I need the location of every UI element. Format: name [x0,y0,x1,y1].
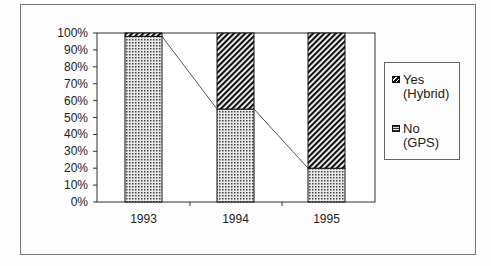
legend: Yes (Hybrid) No (GPS) [384,62,460,160]
y-tick-label: 60% [44,95,88,107]
y-tick-label: 10% [44,179,88,191]
legend-label: No [403,122,420,136]
dotted-swatch-icon [392,125,400,132]
y-tick-label: 0% [44,196,88,208]
x-tick-label: 1993 [124,212,164,226]
y-tick-label: 20% [44,162,88,174]
x-tick-label: 1994 [216,212,256,226]
bar-no-1993 [125,36,162,202]
y-tick-label: 30% [44,145,88,157]
bar-yes-1995 [308,33,345,168]
legend-label: Yes [403,73,424,87]
y-tick-label: 40% [44,128,88,140]
y-tick-label: 50% [44,112,88,124]
hatch-swatch-icon [392,76,400,83]
bars-group [97,33,375,202]
legend-label: (Hybrid) [403,87,449,101]
y-tick-label: 100% [44,27,88,39]
bar-no-1995 [308,168,345,202]
bar-yes-1994 [217,33,254,109]
y-tick-label: 70% [44,78,88,90]
bar-yes-1993 [125,33,162,36]
x-tick-label: 1995 [307,212,347,226]
y-tick-label: 80% [44,61,88,73]
legend-label: (GPS) [403,136,439,150]
bar-no-1994 [217,109,254,202]
y-tick-label: 90% [44,44,88,56]
